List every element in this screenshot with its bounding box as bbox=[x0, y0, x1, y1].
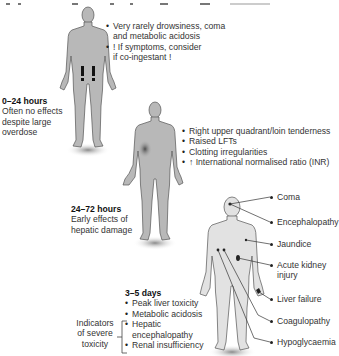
stage-2-time: 24–72 hours bbox=[71, 204, 132, 214]
figure-stage-3 bbox=[200, 197, 270, 356]
stage-3-time: 3–5 days bbox=[125, 288, 204, 298]
stage-3-bullet: Metabolic acidosis bbox=[125, 309, 204, 319]
stage-2-desc-line: Early effects of bbox=[71, 214, 132, 224]
organ-label-liver-failure: Liver failure bbox=[270, 294, 321, 304]
stage-2-bullet: Right upper quadrant/loin tenderness bbox=[182, 126, 330, 136]
stage-1-timing: 0–24 hours Often no effects despite larg… bbox=[2, 96, 63, 138]
organ-label-encephalopathy: Encephalopathy bbox=[270, 217, 339, 227]
stage-2-desc-line: hepatic damage bbox=[71, 225, 132, 235]
stage-1-time: 0–24 hours bbox=[2, 96, 63, 106]
stage-1-bullet-2: ! If symptoms, considerif co-ingestant ! bbox=[106, 42, 225, 63]
stage-2-bullet: Raised LFTs bbox=[182, 136, 330, 146]
stage-3-bullet: Peak liver toxicity bbox=[125, 298, 204, 308]
stage-2-bullet: Clotting irregularities bbox=[182, 147, 330, 157]
stage-2-timing: 24–72 hours Early effects of hepatic dam… bbox=[71, 204, 132, 235]
stage-3-symptoms: 3–5 days Peak liver toxicity Metabolic a… bbox=[125, 288, 204, 350]
severe-label-line: Indicators bbox=[72, 318, 118, 328]
organ-label-jaundice: Jaundice bbox=[270, 239, 311, 249]
stage-2-bullet: ↑ International normalised ratio (INR) bbox=[182, 157, 330, 167]
organ-label-acute-kidney-injury: Acute kidneyinjury bbox=[270, 260, 326, 280]
organ-label-coma: Coma bbox=[270, 192, 300, 202]
severe-label-line: of severe bbox=[72, 328, 118, 338]
stage-1-symptoms: Very rarely drowsiness, comaand metaboli… bbox=[106, 21, 225, 63]
stage-1-desc-line: overdose bbox=[2, 127, 63, 137]
severe-label-line: toxicity bbox=[72, 339, 118, 349]
severe-toxicity-label: Indicators of severe toxicity bbox=[72, 318, 118, 349]
stage-1-bullet-1: Very rarely drowsiness, comaand metaboli… bbox=[106, 21, 225, 42]
liver-tenderness-shading bbox=[138, 140, 152, 158]
stage-3-bullet: Renal insufficiency bbox=[125, 340, 204, 350]
stage-3-bullet: Hepaticencephalopathy bbox=[125, 319, 204, 340]
stage-1-desc-line: despite large bbox=[2, 117, 63, 127]
organ-label-coagulopathy: Coagulopathy bbox=[270, 316, 330, 326]
stage-1-desc-line: Often no effects bbox=[2, 106, 63, 116]
organ-label-hypoglycaemia: Hypoglycaemia bbox=[270, 337, 336, 347]
stage-2-symptoms: Right upper quadrant/loin tenderness Rai… bbox=[182, 126, 330, 168]
